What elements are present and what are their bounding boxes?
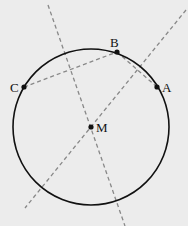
- point-A: [154, 84, 159, 89]
- label-B: B: [110, 35, 119, 50]
- point-C: [21, 84, 26, 89]
- label-M: M: [96, 120, 108, 135]
- label-C: C: [10, 80, 19, 95]
- point-B: [114, 49, 119, 54]
- geometry-diagram: ABCM: [0, 0, 188, 226]
- points: ABCM: [10, 35, 172, 135]
- label-A: A: [162, 80, 172, 95]
- point-M: [88, 124, 93, 129]
- bisector-BA-line: [25, 10, 186, 208]
